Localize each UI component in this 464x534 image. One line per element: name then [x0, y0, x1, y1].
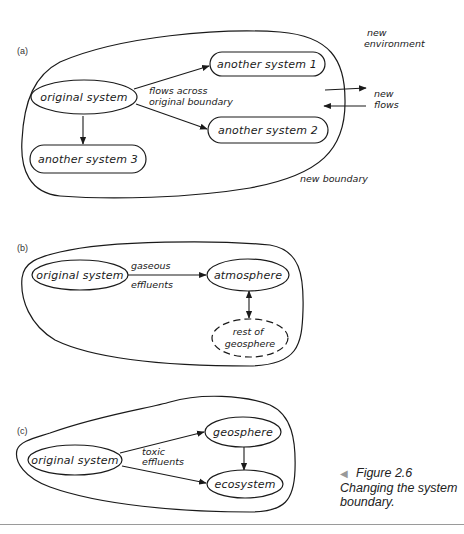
svg-text:ecosystem: ecosystem	[214, 478, 275, 491]
node-atmosphere: atmosphere	[207, 259, 289, 291]
node-original-system: original system	[31, 80, 137, 114]
svg-text:original system: original system	[31, 454, 118, 467]
effluents-label: effluents	[142, 456, 184, 467]
node-original-system: original system	[32, 260, 128, 290]
svg-text:geosphere: geosphere	[225, 338, 275, 349]
left-triangle-icon: ◀	[340, 468, 348, 479]
figure-diagram: (a) original system another system 1 ano…	[0, 0, 464, 534]
figure-caption: ◀Figure 2.6 Changing the system boundary…	[340, 466, 460, 509]
node-ecosystem: ecosystem	[207, 470, 283, 498]
bottom-divider	[0, 524, 464, 525]
edge-original-to-ecosystem	[122, 466, 206, 483]
panel-b: (b) original system atmosphere rest of g…	[17, 242, 303, 366]
node-geosphere: geosphere	[205, 417, 281, 447]
new-flows-label-2: flows	[374, 99, 399, 110]
edge-original-to-another2	[136, 104, 207, 129]
svg-text:another system 3: another system 3	[38, 153, 138, 166]
panel-c-label: (c)	[17, 426, 28, 436]
node-another-system-3: another system 3	[30, 145, 146, 173]
gaseous-label: gaseous	[131, 260, 170, 271]
node-another-system-1: another system 1	[210, 52, 325, 76]
figure-number: Figure 2.6	[356, 466, 412, 480]
figure-title: Changing the system boundary.	[340, 481, 460, 509]
effluents-label: effluents	[131, 279, 173, 290]
new-environment-label-1: new	[367, 27, 387, 38]
svg-text:atmosphere: atmosphere	[214, 269, 282, 282]
panel-a-label: (a)	[17, 46, 28, 56]
svg-text:another system 2: another system 2	[218, 124, 318, 137]
panel-a: (a) original system another system 1 ano…	[17, 27, 426, 198]
svg-text:original system: original system	[36, 269, 123, 282]
svg-text:another system 1: another system 1	[217, 58, 317, 71]
node-original-system: original system	[28, 445, 122, 475]
node-rest-of-geosphere: rest of geosphere	[212, 319, 288, 357]
original-boundary-label: original boundary	[149, 96, 233, 107]
panel-b-label: (b)	[17, 243, 28, 253]
flows-across-label: flows across	[149, 85, 207, 96]
svg-text:original system: original system	[40, 91, 127, 104]
new-environment-label-2: environment	[364, 38, 426, 49]
new-boundary-label: new boundary	[300, 173, 368, 184]
node-another-system-2: another system 2	[208, 117, 328, 143]
panel-c: (c) original system geosphere ecosystem …	[17, 396, 296, 512]
svg-text:rest of: rest of	[233, 326, 265, 337]
svg-text:geosphere: geosphere	[213, 426, 273, 439]
new-flow-out-arrow	[325, 88, 366, 90]
new-flows-label-1: new	[374, 88, 394, 99]
